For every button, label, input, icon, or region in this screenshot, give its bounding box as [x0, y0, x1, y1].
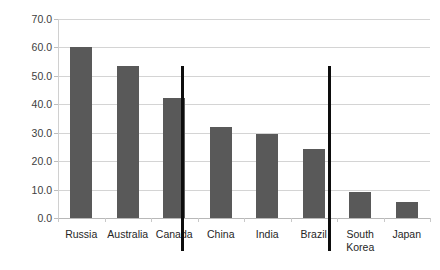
- x-axis-label-india: India: [244, 228, 291, 241]
- x-tick-2: [151, 218, 152, 222]
- group-divider-1: [181, 66, 184, 251]
- group-divider-2: [328, 66, 331, 251]
- y-axis-label-70: 70.0: [14, 14, 52, 25]
- y-axis-label-20: 20.0: [14, 156, 52, 167]
- x-tick-0: [58, 218, 59, 222]
- bar-australia: [117, 66, 139, 218]
- x-axis-label-russia: Russia: [58, 228, 105, 241]
- y-axis-label-40: 40.0: [14, 99, 52, 110]
- bar-japan: [396, 202, 418, 218]
- bar-russia: [70, 47, 92, 218]
- y-axis-label-0: 0.0: [14, 213, 52, 224]
- plot-area: [58, 19, 430, 218]
- bar-south-korea: [349, 192, 371, 218]
- x-tick-6: [337, 218, 338, 222]
- bar-chart: 70.0 60.0 50.0 40.0 30.0 20.0 10.0 0.0 R…: [0, 0, 440, 270]
- x-tick-8: [430, 218, 431, 222]
- x-tick-5: [291, 218, 292, 222]
- x-tick-7: [384, 218, 385, 222]
- y-axis-label-50: 50.0: [14, 71, 52, 82]
- x-tick-4: [244, 218, 245, 222]
- x-axis-label-china: China: [198, 228, 245, 241]
- bar-brazil: [303, 149, 325, 218]
- x-axis-label-canada: Canada: [151, 228, 198, 241]
- x-tick-1: [105, 218, 106, 222]
- x-axis-label-south-korea: South Korea: [337, 228, 384, 254]
- y-axis-label-30: 30.0: [14, 127, 52, 138]
- x-axis-label-australia: Australia: [105, 228, 152, 241]
- bar-china: [210, 127, 232, 218]
- y-axis-labels: 70.0 60.0 50.0 40.0 30.0 20.0 10.0 0.0: [8, 0, 52, 270]
- x-tick-3: [198, 218, 199, 222]
- bar-india: [256, 134, 278, 218]
- x-axis-label-japan: Japan: [384, 228, 431, 241]
- y-axis-label-60: 60.0: [14, 42, 52, 53]
- y-axis-label-10: 10.0: [14, 184, 52, 195]
